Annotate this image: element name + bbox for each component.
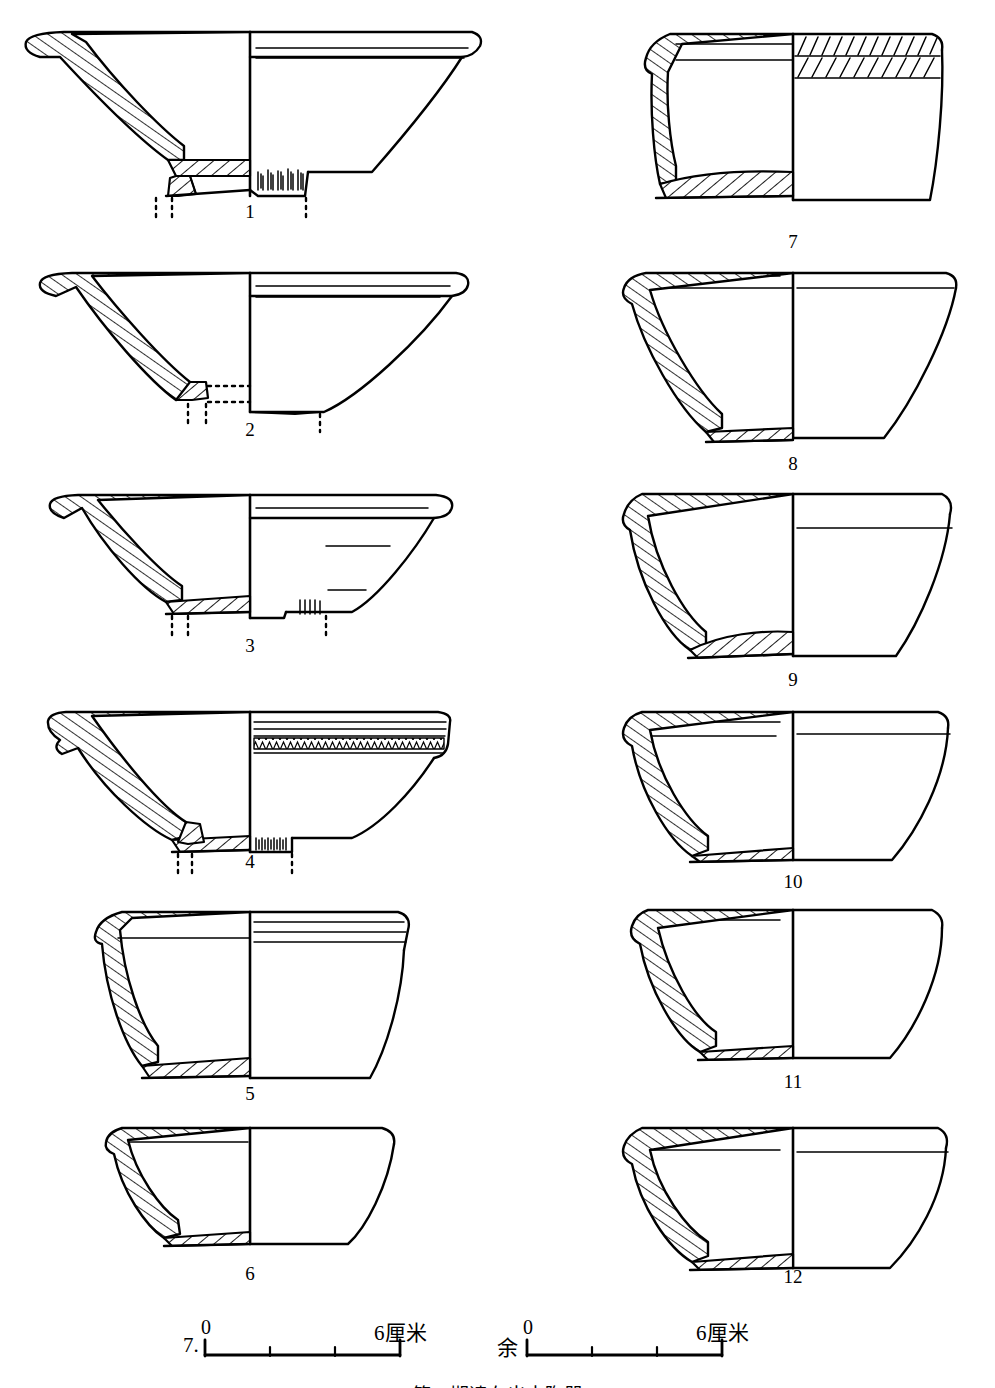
figure-number-1: 1 [245,202,255,221]
vessel-2-drawing [40,273,468,432]
pottery-plate-figure [0,0,995,1388]
figure-number-2: 2 [245,420,255,439]
vessel-12-drawing [623,1128,948,1270]
figure-number-4: 4 [245,852,255,871]
scale-left-start-label: 0 [201,1316,211,1339]
scale-left-prefix-label: 7. [183,1333,199,1358]
figure-number-7: 7 [788,232,798,251]
scale-right-prefix-label: 余 [497,1331,518,1361]
vessel-1-drawing [26,32,481,218]
figure-number-9: 9 [788,670,798,689]
vessel-5-drawing [95,912,409,1078]
vessel-10-drawing [623,712,950,862]
vessel-9-drawing [623,494,952,658]
figure-number-8: 8 [788,454,798,473]
vessel-6-drawing [106,1128,395,1246]
scale-right-end-label: 6厘米 [696,1316,749,1346]
vessel-7-drawing [645,34,943,200]
plate-caption: 第二期遗存出土陶器 [0,1380,995,1388]
figure-number-3: 3 [245,636,255,655]
figure-number-10: 10 [784,872,803,891]
figure-number-11: 11 [784,1072,802,1091]
vessel-11-drawing [631,910,942,1060]
scale-bar-left [205,1340,400,1356]
scale-right-start-label: 0 [523,1316,533,1339]
scale-left-end-label: 6厘米 [374,1316,427,1346]
figure-number-6: 6 [245,1264,255,1283]
scale-bar-right [527,1340,722,1356]
vessel-8-drawing [623,273,956,442]
vessel-3-drawing [50,495,452,638]
figure-number-12: 12 [784,1267,803,1286]
figure-number-5: 5 [245,1084,255,1103]
